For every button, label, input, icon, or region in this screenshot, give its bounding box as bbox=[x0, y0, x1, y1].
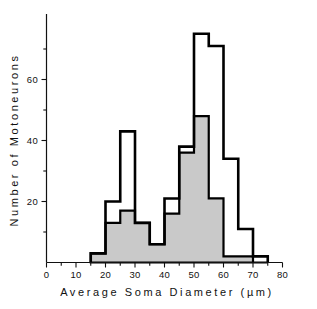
x-axis-tick-labels: 01020304050607080 bbox=[44, 269, 288, 280]
x-axis-tick-label: 10 bbox=[70, 269, 81, 280]
y-axis-tick-label: 40 bbox=[27, 135, 38, 146]
y-axis-tick-label: 20 bbox=[27, 196, 38, 207]
x-axis-tick-label: 80 bbox=[277, 269, 288, 280]
x-axis-tick-label: 20 bbox=[100, 269, 111, 280]
x-axis-tick-label: 60 bbox=[218, 269, 229, 280]
x-axis-tick-label: 30 bbox=[129, 269, 140, 280]
x-axis-tick-label: 0 bbox=[44, 269, 50, 280]
x-axis-tick-label: 50 bbox=[188, 269, 199, 280]
x-axis-title: Average Soma Diameter (µm) bbox=[60, 286, 274, 298]
x-axis-tick-label: 40 bbox=[159, 269, 170, 280]
histogram-figure: 01020304050607080 204060 Average Soma Di… bbox=[0, 0, 317, 309]
y-axis-title: Number of Motoneurons bbox=[8, 53, 20, 226]
x-axis-tick-label: 70 bbox=[247, 269, 258, 280]
y-axis-tick-label: 60 bbox=[27, 74, 38, 85]
